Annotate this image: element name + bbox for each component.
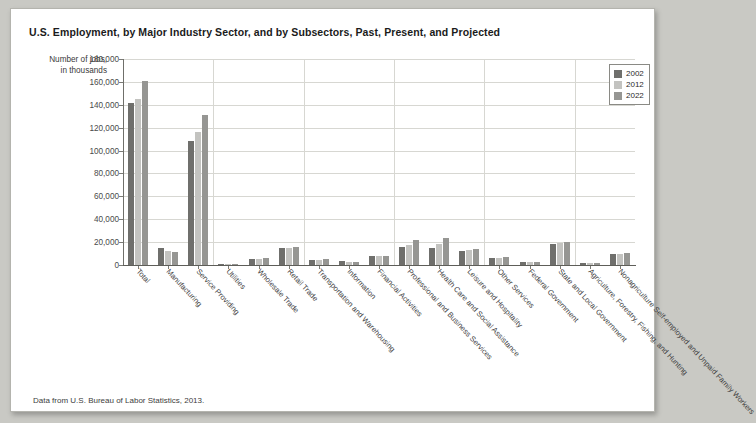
bar[interactable] [564, 242, 570, 265]
bar-group [339, 59, 359, 265]
bar[interactable] [293, 247, 299, 265]
legend-item-label: 2002 [626, 69, 644, 78]
bar[interactable] [610, 254, 616, 265]
plot-area [123, 59, 635, 265]
bar[interactable] [263, 258, 269, 265]
y-axis-tick-label: 100,000 [59, 146, 119, 155]
bar[interactable] [557, 243, 563, 265]
x-axis-tick-label: Utilities [225, 267, 248, 291]
x-gridline [484, 59, 485, 265]
bar[interactable] [443, 238, 449, 265]
bar[interactable] [436, 244, 442, 265]
bar[interactable] [158, 248, 164, 266]
bar-group [520, 59, 540, 265]
bar[interactable] [142, 81, 148, 265]
source-note: Data from U.S. Bureau of Labor Statistic… [33, 396, 204, 405]
bar[interactable] [466, 250, 472, 265]
y-axis-ticks: 020,00040,00060,00080,000100,000120,0001… [57, 59, 119, 265]
y-axis-tick-label: 140,000 [59, 100, 119, 109]
y-axis-tick-label: 40,000 [59, 215, 119, 224]
bar-group [128, 59, 148, 265]
y-axis-tick-label: 180,000 [59, 55, 119, 64]
y-axis-line [123, 59, 124, 265]
legend-swatch-icon [614, 92, 622, 100]
bar[interactable] [376, 256, 382, 265]
legend-item[interactable]: 2022 [614, 90, 644, 101]
x-axis-tick-label: Information [345, 267, 377, 301]
legend: 200220122022 [609, 64, 650, 105]
x-axis-tick-label: Leisure and Hospitality [466, 267, 525, 329]
bar[interactable] [188, 141, 194, 265]
bar[interactable] [135, 99, 141, 265]
bar[interactable] [202, 115, 208, 265]
bar[interactable] [413, 240, 419, 265]
x-gridline [575, 59, 576, 265]
x-axis-tick-label: Total [134, 267, 152, 285]
y-axis-tick-label: 120,000 [59, 123, 119, 132]
legend-swatch-icon [614, 81, 622, 89]
bar[interactable] [473, 249, 479, 265]
bar-group [158, 59, 178, 265]
bar-group [369, 59, 389, 265]
legend-swatch-icon [614, 70, 622, 78]
y-axis-tick-label: 160,000 [59, 77, 119, 86]
bar-group [429, 59, 449, 265]
bar[interactable] [383, 256, 389, 265]
bar[interactable] [489, 258, 495, 265]
bar[interactable] [286, 248, 292, 265]
bar[interactable] [279, 248, 285, 265]
bar[interactable] [459, 251, 465, 265]
bar[interactable] [406, 245, 412, 265]
x-gridline [304, 59, 305, 265]
y-axis-tick-label: 0 [59, 261, 119, 270]
bar-group [249, 59, 269, 265]
bar[interactable] [503, 257, 509, 265]
legend-item-label: 2012 [626, 80, 644, 89]
bar[interactable] [165, 251, 171, 265]
bar[interactable] [550, 244, 556, 266]
bar[interactable] [617, 254, 623, 265]
bar[interactable] [172, 252, 178, 265]
bar-group [309, 59, 329, 265]
legend-item[interactable]: 2012 [614, 79, 644, 90]
x-axis-tick-label: Federal Government [526, 267, 580, 324]
bar-group [550, 59, 570, 265]
bar-group [489, 59, 509, 265]
bar-group [279, 59, 299, 265]
x-axis-labels: TotalManufacturingService ProvidingUtili… [123, 267, 636, 397]
legend-item-label: 2022 [626, 91, 644, 100]
bar[interactable] [369, 256, 375, 265]
chart-card: U.S. Employment, by Major Industry Secto… [10, 8, 655, 412]
legend-item[interactable]: 2002 [614, 68, 644, 79]
bar[interactable] [496, 258, 502, 265]
bar[interactable] [128, 103, 134, 266]
bar[interactable] [195, 132, 201, 265]
page-title: U.S. Employment, by Major Industry Secto… [29, 26, 500, 38]
x-gridline [394, 59, 395, 265]
y-axis-tick-label: 80,000 [59, 169, 119, 178]
bar-group [399, 59, 419, 265]
bar-group [218, 59, 238, 265]
bar[interactable] [429, 248, 435, 265]
y-axis-tick-label: 20,000 [59, 238, 119, 247]
y-axis-tick-label: 60,000 [59, 192, 119, 201]
bar-group [188, 59, 208, 265]
bar[interactable] [624, 253, 630, 265]
bar-group [580, 59, 600, 265]
x-axis-tick-label: Nonagriculture Self-employed and Unpaid … [616, 267, 756, 416]
x-gridline [213, 59, 214, 265]
bar[interactable] [399, 247, 405, 265]
bar-group [459, 59, 479, 265]
x-axis-line [123, 265, 636, 266]
